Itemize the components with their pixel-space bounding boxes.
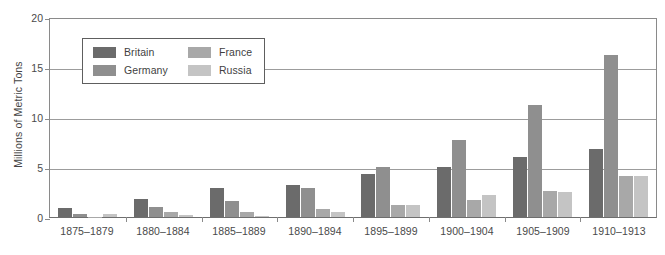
- bar-group: [429, 19, 505, 217]
- y-tick-mark: [45, 219, 50, 220]
- x-tick-mark: [202, 217, 203, 222]
- legend-item-france: France: [188, 46, 252, 58]
- x-tick-label: 1875–1879: [49, 225, 125, 237]
- bar-france-1895–1899: [391, 205, 405, 217]
- legend-item-britain: Britain: [93, 46, 168, 58]
- x-tick-label: 1885–1889: [201, 225, 277, 237]
- y-tick-label: 5: [3, 162, 43, 174]
- x-tick-mark: [353, 217, 354, 222]
- bar-britain-1885–1889: [210, 188, 224, 217]
- legend-label: France: [219, 46, 252, 58]
- bar-france-1880–1884: [164, 212, 178, 217]
- legend-label: Russia: [219, 64, 252, 76]
- bar-russia-1905–1909: [558, 192, 572, 217]
- x-tick-label: 1910–1913: [581, 225, 657, 237]
- bar-germany-1880–1884: [149, 207, 163, 217]
- bar-russia-1910–1913: [634, 176, 648, 217]
- x-tick-mark: [126, 217, 127, 222]
- x-tick-label: 1895–1899: [353, 225, 429, 237]
- bar-russia-1880–1884: [179, 215, 193, 217]
- bar-britain-1875–1879: [58, 208, 72, 217]
- legend-item-russia: Russia: [188, 64, 252, 76]
- bar-britain-1900–1904: [437, 167, 451, 217]
- bar-france-1905–1909: [543, 191, 557, 217]
- legend-swatch-britain: [93, 47, 116, 58]
- bar-france-1875–1879: [88, 217, 102, 218]
- x-tick-label: 1880–1884: [125, 225, 201, 237]
- bar-germany-1875–1879: [73, 214, 87, 217]
- bar-germany-1900–1904: [452, 140, 466, 217]
- bar-france-1885–1889: [240, 212, 254, 217]
- x-tick-label: 1905–1909: [505, 225, 581, 237]
- bar-russia-1885–1889: [255, 216, 269, 217]
- bar-germany-1905–1909: [528, 105, 542, 217]
- y-tick-label: 20: [3, 12, 43, 24]
- bar-france-1900–1904: [467, 200, 481, 217]
- bar-britain-1910–1913: [589, 149, 603, 217]
- legend-label: Germany: [124, 64, 168, 76]
- bar-russia-1895–1899: [406, 205, 420, 217]
- bar-britain-1905–1909: [513, 157, 527, 217]
- legend: BritainFranceGermanyRussia: [82, 38, 265, 84]
- x-tick-mark: [505, 217, 506, 222]
- bar-britain-1890–1894: [286, 185, 300, 217]
- bar-france-1910–1913: [619, 176, 633, 217]
- legend-swatch-russia: [188, 65, 211, 76]
- legend-item-germany: Germany: [93, 64, 168, 76]
- bar-britain-1895–1899: [361, 174, 375, 217]
- bar-russia-1890–1894: [331, 212, 345, 217]
- bar-germany-1895–1899: [376, 167, 390, 217]
- y-tick-label: 10: [3, 112, 43, 124]
- bar-germany-1890–1894: [301, 188, 315, 217]
- bar-group: [580, 19, 656, 217]
- bar-france-1890–1894: [316, 209, 330, 217]
- legend-label: Britain: [124, 46, 154, 58]
- bar-russia-1900–1904: [482, 195, 496, 217]
- bar-britain-1880–1884: [134, 199, 148, 217]
- legend-swatch-germany: [93, 65, 116, 76]
- bar-germany-1885–1889: [225, 201, 239, 217]
- bar-group: [277, 19, 353, 217]
- bar-group: [353, 19, 429, 217]
- bar-germany-1910–1913: [604, 55, 618, 217]
- legend-swatch-france: [188, 47, 211, 58]
- y-tick-label: 0: [3, 212, 43, 224]
- bar-group: [505, 19, 581, 217]
- x-tick-label: 1900–1904: [429, 225, 505, 237]
- x-tick-mark: [277, 217, 278, 222]
- x-tick-label: 1890–1894: [277, 225, 353, 237]
- bar-russia-1875–1879: [103, 214, 117, 217]
- x-axis-tick-labels: 1875–18791880–18841885–18891890–18941895…: [49, 225, 657, 237]
- steel-production-bar-chart: Millions of Metric Tons 05101520 1875–18…: [0, 0, 665, 255]
- x-tick-mark: [580, 217, 581, 222]
- x-tick-mark: [429, 217, 430, 222]
- y-tick-label: 15: [3, 62, 43, 74]
